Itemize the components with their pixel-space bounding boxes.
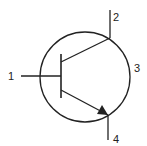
transistor-diagram: 1 2 3 4 [0,0,147,146]
label-envelope: 3 [134,62,140,74]
transistor-envelope-circle [40,32,130,122]
label-emitter: 4 [113,133,119,145]
collector-line [61,38,110,62]
label-base: 1 [8,70,14,82]
label-collector: 2 [113,11,119,23]
